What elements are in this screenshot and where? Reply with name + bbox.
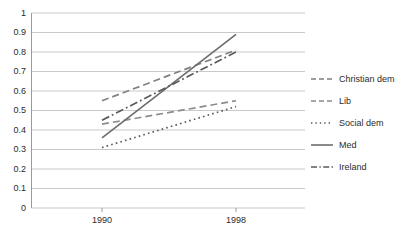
gridlines bbox=[32, 13, 306, 208]
legend-swatch-ireland bbox=[311, 162, 333, 172]
legend-swatch-social-dem bbox=[311, 118, 333, 128]
legend-label: Ireland bbox=[339, 162, 367, 172]
line-chart: 1 0.9 0.8 0.7 0.6 0.5 0.4 0.3 0.2 0.1 0 … bbox=[0, 0, 413, 235]
x-axis-tick-marks bbox=[102, 208, 236, 212]
legend-label: Med bbox=[339, 140, 357, 150]
legend-swatch-christian-dem bbox=[311, 74, 333, 84]
legend-item: Christian dem bbox=[311, 69, 411, 88]
series-line-lib bbox=[102, 101, 236, 124]
legend-label: Christian dem bbox=[339, 74, 395, 84]
legend-item: Ireland bbox=[311, 157, 411, 176]
series-line-christian-dem bbox=[102, 50, 236, 101]
legend-item: Social dem bbox=[311, 113, 411, 132]
legend-label: Lib bbox=[339, 96, 351, 106]
chart-legend: Christian dem Lib Social dem Med Ireland bbox=[311, 69, 411, 179]
legend-item: Lib bbox=[311, 91, 411, 110]
legend-item: Med bbox=[311, 135, 411, 154]
legend-swatch-lib bbox=[311, 96, 333, 106]
legend-label: Social dem bbox=[339, 118, 384, 128]
legend-swatch-med bbox=[311, 140, 333, 150]
